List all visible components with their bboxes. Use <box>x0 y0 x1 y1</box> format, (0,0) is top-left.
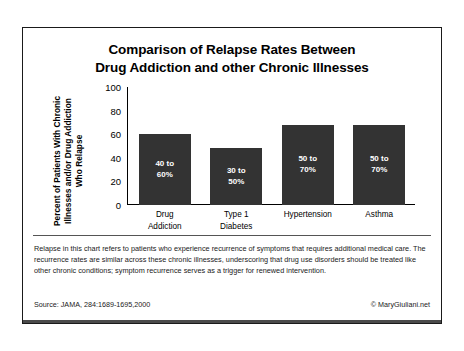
x-tick-label-line: Asthma <box>348 209 410 221</box>
y-tick-label: 100 <box>95 81 121 92</box>
chart-title: Comparison of Relapse Rates Between Drug… <box>23 28 441 77</box>
x-tick-label-line: Hypertension <box>277 209 339 221</box>
y-tick-label: 80 <box>95 105 121 116</box>
footer-rule <box>23 320 441 323</box>
y-tick-label: 60 <box>95 129 121 140</box>
x-tick-label-line: Type 1 <box>205 209 267 221</box>
y-tick-label: 20 <box>95 176 121 187</box>
caption-block: Relapse in this chart refers to patients… <box>23 236 441 276</box>
y-axis-label-line-2: Illnesses and/or Drug Addiction <box>63 98 74 224</box>
y-axis-label: Percent of Patients With Chronic Illness… <box>52 87 92 235</box>
y-axis-ticks: 100806040200 <box>95 87 121 205</box>
bar[interactable]: 50 to70% <box>282 125 334 205</box>
bar-value-label: 50 to70% <box>368 154 391 176</box>
bar[interactable]: 40 to60% <box>139 134 191 205</box>
chart-figure: Comparison of Relapse Rates Between Drug… <box>22 27 442 324</box>
bar-value-label: 50 to70% <box>296 154 319 176</box>
caption-text: Relapse in this chart refers to patients… <box>34 243 430 276</box>
bar-slot: 50 to70% <box>277 87 339 205</box>
chart-title-line-2: Drug Addiction and other Chronic Illness… <box>49 59 415 77</box>
x-tick-label: DrugAddiction <box>134 209 196 233</box>
x-tick-label: Hypertension <box>277 209 339 233</box>
x-tick-label-line: Drug <box>134 209 196 221</box>
copyright-notice: © MaryGiuliani.net <box>371 300 430 309</box>
x-axis-ticks: DrugAddictionType 1DiabetesHypertensionA… <box>129 209 415 233</box>
bar[interactable]: 50 to70% <box>353 125 405 205</box>
bar[interactable]: 30 to50% <box>210 148 262 205</box>
bar-series: 40 to60%30 to50%50 to70%50 to70% <box>129 87 415 205</box>
x-tick-label-line: Addiction <box>134 221 196 233</box>
y-tick-label: 0 <box>95 199 121 210</box>
bar-value-label: 30 to50% <box>225 166 248 188</box>
y-axis-label-line-1: Percent of Patients With Chronic <box>52 96 63 226</box>
source-citation: Source: JAMA, 284:1689-1695,2000 <box>34 300 150 309</box>
x-tick-label-line: Diabetes <box>205 221 267 233</box>
bar-slot: 30 to50% <box>205 87 267 205</box>
y-tick-label: 40 <box>95 152 121 163</box>
x-tick-label: Type 1Diabetes <box>205 209 267 233</box>
plot-area: Percent of Patients With Chronic Illness… <box>23 87 441 235</box>
x-tick-label: Asthma <box>348 209 410 233</box>
chart-title-line-1: Comparison of Relapse Rates Between <box>49 41 415 59</box>
footer: Source: JAMA, 284:1689-1695,2000 © MaryG… <box>34 300 430 309</box>
y-axis-label-line-3: Who Relapse <box>74 135 85 188</box>
bar-slot: 40 to60% <box>134 87 196 205</box>
bar-slot: 50 to70% <box>348 87 410 205</box>
bar-value-label: 40 to60% <box>153 159 176 181</box>
